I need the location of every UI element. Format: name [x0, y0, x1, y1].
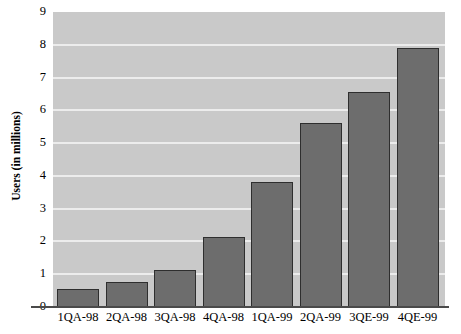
bar: [106, 282, 148, 307]
y-tick-label: 9: [24, 5, 46, 18]
bar: [57, 289, 99, 307]
bar-series: [53, 12, 445, 307]
bar-chart: Users (in millions) 0123456789 1QA-982QA…: [0, 0, 461, 334]
x-axis-line: [31, 306, 449, 308]
y-tick-label: 5: [24, 136, 46, 149]
bar: [203, 237, 245, 307]
bar: [397, 48, 439, 307]
bar: [251, 182, 293, 307]
y-tick-label: 2: [24, 234, 46, 247]
y-tick-label: 7: [24, 71, 46, 84]
y-tick-label: 8: [24, 38, 46, 51]
bar: [154, 270, 196, 307]
bar: [300, 123, 342, 307]
bar: [348, 92, 390, 307]
y-tick-label: 3: [24, 202, 46, 215]
y-tick-label: 4: [24, 169, 46, 182]
y-tick-label: 6: [24, 103, 46, 116]
plot-area: [53, 12, 445, 307]
y-axis-title: Users (in millions): [10, 71, 22, 241]
y-tick-label: 1: [24, 267, 46, 280]
x-tick-label: 4QE-99: [388, 311, 448, 325]
